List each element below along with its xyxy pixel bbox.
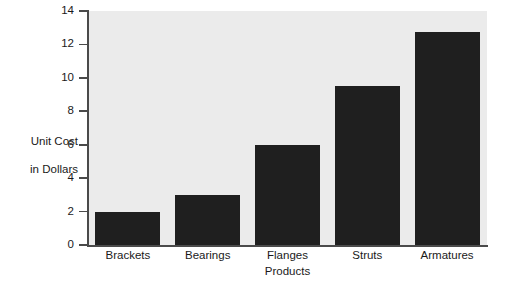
y-axis-tick	[79, 110, 88, 112]
x-axis-category-label: Armatures	[407, 249, 487, 261]
bar	[415, 32, 480, 245]
x-axis-category-label: Bearings	[168, 249, 248, 261]
y-axis-tick	[79, 244, 88, 246]
y-axis-tick-label: 8	[48, 104, 74, 116]
y-axis-tick-label: 2	[48, 205, 74, 217]
y-axis-tick-label: 12	[48, 37, 74, 49]
x-axis-title: Products	[88, 265, 487, 277]
bar	[95, 212, 160, 245]
y-axis-tick	[79, 177, 88, 179]
y-axis-tick-label: 14	[48, 4, 74, 16]
x-axis-line	[87, 245, 488, 247]
y-axis-tick-label: 4	[48, 171, 74, 183]
x-axis-category-label: Brackets	[88, 249, 168, 261]
y-axis-tick	[79, 211, 88, 213]
bar	[335, 86, 400, 245]
bar-chart: Unit Cost in Dollars 02468101214Brackets…	[0, 0, 506, 283]
x-axis-category-label: Struts	[327, 249, 407, 261]
x-axis-category-label: Flanges	[248, 249, 328, 261]
bar	[255, 145, 320, 245]
y-axis-tick	[79, 10, 88, 12]
y-axis-tick	[79, 44, 88, 46]
bars-container	[88, 11, 487, 245]
bar	[175, 195, 240, 245]
y-axis-tick-label: 10	[48, 71, 74, 83]
y-axis-tick	[79, 144, 88, 146]
y-axis-tick-label: 6	[48, 138, 74, 150]
y-axis-tick-label: 0	[48, 238, 74, 250]
y-axis-tick	[79, 77, 88, 79]
